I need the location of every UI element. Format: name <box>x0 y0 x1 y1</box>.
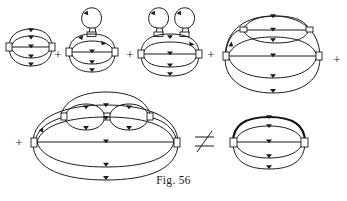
diagram-6 <box>230 115 308 169</box>
vertex-box-bubble-left <box>61 113 67 120</box>
vertex-box-right <box>196 50 202 58</box>
arrow-marker <box>126 105 132 109</box>
figure-caption: Fig. 56 <box>0 174 347 186</box>
neq-slash <box>197 131 212 152</box>
bubble-arc-top <box>243 16 309 30</box>
vertex-box-left <box>223 52 229 60</box>
diagram-4 <box>223 14 322 93</box>
vertex-box-left <box>230 138 237 147</box>
feynman-diagram-canvas: + + <box>0 0 347 201</box>
vertex-box-right <box>301 138 308 147</box>
arrow-marker <box>28 36 34 40</box>
arrow-marker <box>167 72 173 76</box>
tadpole-loop <box>149 8 169 28</box>
operator-not-equal <box>195 131 214 152</box>
arrow-marker <box>270 54 276 58</box>
vertex-box-bubble-right <box>147 113 153 120</box>
operator-plus: + <box>126 47 133 62</box>
vertex-box-bubble-left <box>240 27 247 32</box>
bubble-arc-bottom <box>243 30 309 43</box>
arrow-marker <box>167 52 173 56</box>
diagram-2 <box>66 8 118 72</box>
diagram-1 <box>6 28 55 66</box>
arrow-marker <box>266 139 272 143</box>
arrow-marker <box>228 42 233 47</box>
arrow-marker <box>83 126 89 130</box>
arrow-marker <box>167 35 173 39</box>
tadpole-loop <box>82 8 102 28</box>
bubble-cap-arc <box>61 92 150 114</box>
arrow-marker <box>270 38 276 42</box>
vertex-box-right <box>174 138 180 147</box>
vertex-box-right <box>112 48 118 56</box>
tadpole-loop <box>175 8 195 28</box>
vertex-box-left <box>31 138 37 147</box>
diagram-3 <box>138 8 202 76</box>
figure-container: + + <box>0 0 347 201</box>
arrow-marker <box>126 126 132 130</box>
connector-right <box>153 118 176 138</box>
operator-plus: + <box>207 47 214 62</box>
arrow-marker <box>103 163 109 167</box>
bubble-left-bottom <box>64 117 105 130</box>
arrow-marker <box>83 105 89 109</box>
operator-plus: + <box>333 52 340 67</box>
propagator-arc-mid-upper <box>37 117 174 142</box>
vertex-box-bubble-right <box>306 27 313 32</box>
vertex-box-left <box>138 50 144 58</box>
arrow-marker <box>270 89 276 93</box>
operator-plus: + <box>15 135 22 150</box>
vertex-box-left <box>6 43 12 51</box>
arrow-marker <box>103 139 109 143</box>
arrow-marker <box>89 50 95 54</box>
diagram-5 <box>31 92 180 180</box>
vertex-box-right <box>316 52 322 60</box>
arrow-marker <box>28 45 34 49</box>
propagator-arc-outer-top <box>33 105 178 143</box>
propagator-arc-top-bold <box>233 117 305 142</box>
operator-plus: + <box>54 47 61 62</box>
arrow-marker <box>28 28 34 32</box>
vertex-box-left <box>66 48 72 56</box>
arrow-marker <box>270 74 276 78</box>
